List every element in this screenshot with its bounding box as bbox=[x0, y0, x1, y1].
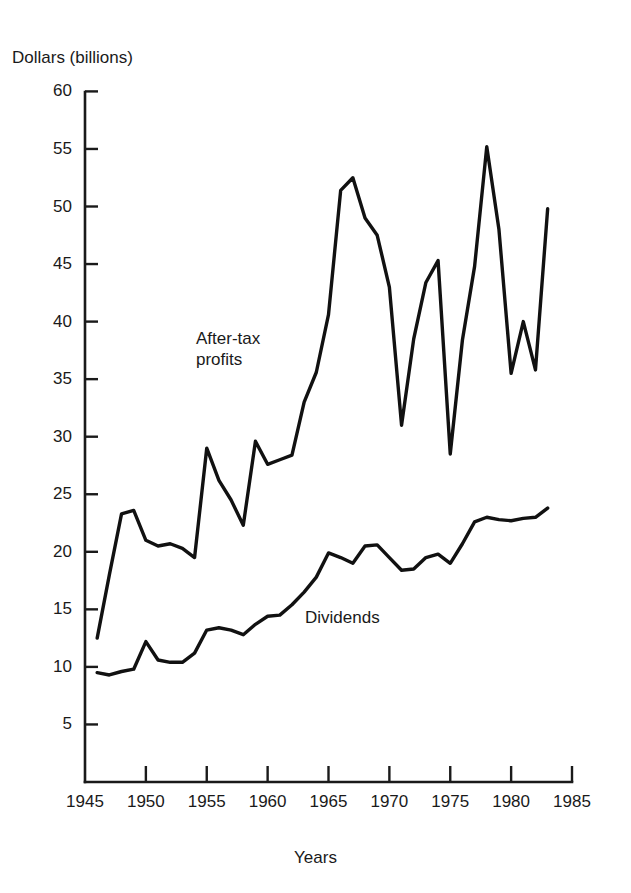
series-label-after-tax-profits: After-tax profits bbox=[196, 329, 260, 370]
x-axis-ticks bbox=[146, 766, 572, 782]
series-label-line-1: After-tax bbox=[196, 329, 260, 350]
series-line-dividends bbox=[97, 508, 547, 675]
series-label-dividends: Dividends bbox=[305, 608, 380, 629]
data-series-lines bbox=[97, 147, 547, 675]
series-label-line-2: profits bbox=[196, 350, 260, 371]
y-axis-ticks bbox=[85, 91, 98, 724]
axis-lines bbox=[85, 92, 572, 782]
line-chart: Dollars (billions) Years 605550454035302… bbox=[0, 0, 631, 893]
plot-area bbox=[0, 0, 631, 893]
